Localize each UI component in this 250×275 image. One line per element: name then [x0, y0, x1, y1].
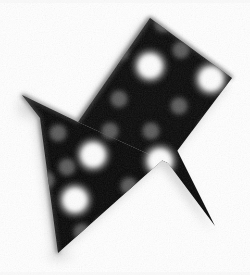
halftone-grain-overlay: [0, 0, 250, 275]
arrow-sign-illustration: [0, 0, 250, 275]
image-canvas: Illuminated arrow sign pointing down-lef…: [0, 0, 250, 275]
